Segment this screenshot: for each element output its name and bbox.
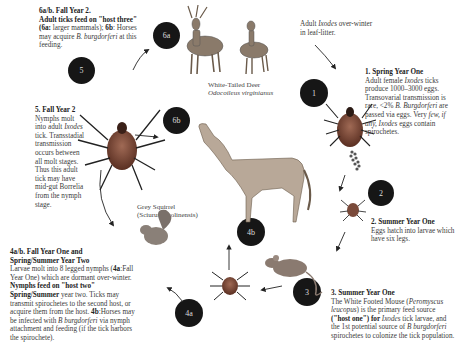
eggs-illustration (349, 150, 360, 170)
adult-tick-illustration (78, 110, 165, 190)
cycle-arrows (100, 45, 345, 302)
horse-illustration (199, 124, 310, 222)
nymph-tick-illustration (210, 272, 250, 300)
larva-illustration (340, 200, 366, 221)
squirrel-illustration (140, 210, 171, 245)
mouse-illustration (265, 255, 322, 295)
female-tick-illustration (324, 104, 376, 147)
deer-illustration (187, 5, 268, 74)
diagram-illustrations (0, 0, 461, 357)
